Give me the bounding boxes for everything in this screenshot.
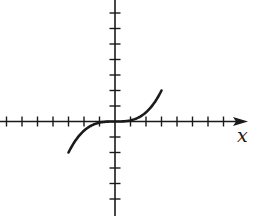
x-axis-label: x [237, 126, 248, 145]
cartesian-plot [0, 0, 260, 216]
